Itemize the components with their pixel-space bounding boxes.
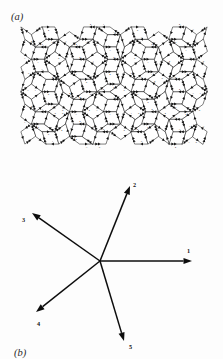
star-arrowhead-2 bbox=[124, 186, 130, 195]
star-arrowhead-1 bbox=[184, 258, 193, 264]
star-canvas: 12345 bbox=[0, 0, 223, 359]
star-vector-label-3: 3 bbox=[22, 216, 25, 223]
star-group bbox=[32, 186, 192, 341]
star-vector-label-1: 1 bbox=[187, 247, 190, 254]
star-vector-2 bbox=[100, 194, 127, 261]
star-arrowhead-5 bbox=[119, 332, 125, 341]
basis-vector-star-svg: 12345 bbox=[0, 0, 223, 359]
panel-b-star: (b) 12345 bbox=[0, 170, 223, 359]
star-labels-group: 12345 bbox=[22, 181, 190, 350]
star-vector-label-4: 4 bbox=[37, 320, 40, 327]
star-vector-4 bbox=[43, 261, 100, 307]
star-vector-label-5: 5 bbox=[129, 343, 132, 350]
star-arrowhead-3 bbox=[32, 213, 41, 220]
star-vector-3 bbox=[39, 218, 100, 261]
star-vector-label-2: 2 bbox=[133, 181, 136, 188]
figure-root: (a) 232412423412345213423124351243241324… bbox=[0, 0, 223, 359]
star-vector-5 bbox=[100, 261, 122, 333]
